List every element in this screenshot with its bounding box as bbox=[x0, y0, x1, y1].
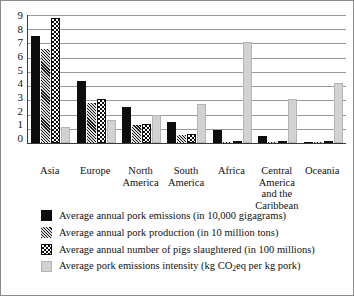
bar bbox=[233, 141, 242, 143]
bar bbox=[167, 122, 176, 143]
x-axis-label: Oceania bbox=[300, 165, 345, 211]
x-axis-category-labels: AsiaEuropeNorth AmericaSouth AmericaAfri… bbox=[27, 165, 345, 211]
legend-item: Average pork emissions intensity (kg CO2… bbox=[41, 258, 341, 275]
bar bbox=[278, 141, 287, 143]
bar-group bbox=[28, 15, 73, 143]
bar bbox=[223, 142, 232, 143]
bar-group bbox=[210, 15, 255, 143]
bar bbox=[61, 127, 70, 143]
bar-groups bbox=[28, 15, 346, 143]
legend-label: Average annual pork emissions (in 10,000… bbox=[59, 210, 286, 222]
bar-group bbox=[164, 15, 209, 143]
y-axis-tick: 3 bbox=[18, 93, 24, 101]
bar bbox=[334, 83, 343, 143]
y-axis-tick: 9 bbox=[18, 11, 24, 19]
x-axis-label: South America bbox=[163, 165, 208, 211]
y-axis-tick: 2 bbox=[18, 107, 24, 115]
x-axis-label: Asia bbox=[27, 165, 72, 211]
x-axis-label: Europe bbox=[72, 165, 117, 211]
bar-group bbox=[301, 15, 346, 143]
y-axis-tick: 4 bbox=[18, 79, 24, 87]
bar bbox=[122, 107, 131, 143]
bar bbox=[213, 130, 222, 143]
bar bbox=[187, 134, 196, 143]
bar-group bbox=[119, 15, 164, 143]
legend-label: Average annual pork production (in 10 mi… bbox=[59, 227, 278, 239]
y-axis-tick-labels: 9876543210 bbox=[7, 11, 23, 142]
y-axis-tick: 1 bbox=[18, 120, 24, 128]
bar bbox=[314, 142, 323, 143]
bar bbox=[142, 124, 151, 143]
legend-item: Average annual pork emissions (in 10,000… bbox=[41, 207, 341, 224]
chart-legend: Average annual pork emissions (in 10,000… bbox=[41, 207, 341, 275]
plot-area bbox=[27, 15, 346, 144]
legend-swatch-light-gray bbox=[41, 261, 52, 272]
x-axis-label: North America bbox=[118, 165, 163, 211]
x-axis-label: Central America and the Caribbean bbox=[254, 165, 299, 211]
legend-label: Average annual number of pigs slaughtere… bbox=[59, 244, 315, 256]
y-axis-tick: 8 bbox=[18, 25, 24, 33]
y-axis-tick: 0 bbox=[18, 134, 24, 142]
legend-swatch-diagonal-hatch bbox=[41, 227, 52, 238]
chart-figure: 9876543210 AsiaEuropeNorth AmericaSouth … bbox=[0, 0, 354, 296]
bar bbox=[288, 99, 297, 143]
bar bbox=[107, 120, 116, 143]
legend-item: Average annual number of pigs slaughtere… bbox=[41, 241, 341, 258]
bar bbox=[197, 104, 206, 143]
legend-label: Average pork emissions intensity (kg CO2… bbox=[59, 260, 301, 273]
bar bbox=[177, 135, 186, 143]
bar-group bbox=[255, 15, 300, 143]
bar bbox=[87, 103, 96, 143]
bar bbox=[132, 125, 141, 143]
bar-group bbox=[73, 15, 118, 143]
bar bbox=[41, 49, 50, 143]
legend-item: Average annual pork production (in 10 mi… bbox=[41, 224, 341, 241]
y-axis-tick: 7 bbox=[18, 38, 24, 46]
bar bbox=[304, 142, 313, 143]
y-axis-tick: 6 bbox=[18, 52, 24, 60]
bar bbox=[97, 99, 106, 143]
legend-swatch-solid-black bbox=[41, 210, 52, 221]
bar bbox=[268, 142, 277, 143]
bar bbox=[258, 136, 267, 143]
bar bbox=[152, 115, 161, 143]
bar bbox=[243, 42, 252, 143]
y-axis-tick: 5 bbox=[18, 66, 24, 74]
chart-plot-region: 9876543210 AsiaEuropeNorth AmericaSouth … bbox=[1, 5, 354, 157]
bar bbox=[324, 141, 333, 143]
bar bbox=[77, 81, 86, 143]
legend-swatch-checkerboard bbox=[41, 244, 52, 255]
bar bbox=[51, 18, 60, 143]
x-axis-label: Africa bbox=[209, 165, 254, 211]
bar bbox=[31, 36, 40, 143]
